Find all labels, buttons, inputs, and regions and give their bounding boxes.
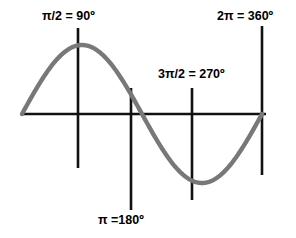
label-pi: π =180º — [98, 214, 144, 227]
label-three-pi-over-2: 3π/2 = 270º — [158, 68, 225, 81]
label-two-pi: 2π = 360º — [217, 10, 273, 23]
sine-plot-svg — [0, 0, 296, 238]
label-pi-over-2: π/2 = 90º — [42, 10, 95, 23]
sine-wave-figure: π/2 = 90º 2π = 360º 3π/2 = 270º π =180º — [0, 0, 296, 238]
